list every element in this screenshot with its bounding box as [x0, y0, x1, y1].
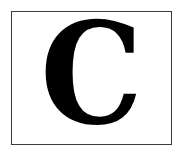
letter-frame: C — [11, 11, 172, 145]
letter-glyph: C — [18, 8, 164, 140]
